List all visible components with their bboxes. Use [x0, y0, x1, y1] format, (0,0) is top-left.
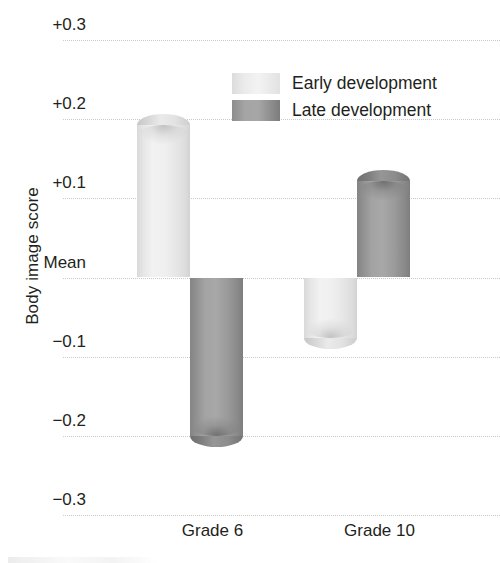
gridline — [63, 198, 500, 199]
legend-label-early: Early development — [292, 73, 437, 94]
y-axis-tick-label: +0.3 — [0, 15, 86, 35]
bar-body — [137, 125, 190, 278]
legend-swatch-late-icon — [232, 100, 280, 121]
legend-label-late: Late development — [292, 100, 431, 121]
bar-late-grade-10[interactable] — [357, 181, 410, 278]
y-axis-tick-label: −0.3 — [0, 490, 86, 510]
chart-legend: Early development Late development — [232, 70, 437, 124]
bar-early-grade-10[interactable] — [304, 278, 357, 338]
bar-early-grade-6[interactable] — [137, 125, 190, 278]
x-axis-label-grade-10: Grade 10 — [307, 521, 452, 541]
bar-cap-shading — [304, 318, 357, 338]
legend-swatch-early-icon — [232, 73, 280, 94]
x-axis-label-grade-6: Grade 6 — [140, 521, 285, 541]
gridline — [63, 515, 500, 516]
gridline — [63, 436, 500, 437]
gridline — [63, 40, 500, 41]
y-axis-tick-label: +0.2 — [0, 94, 86, 114]
y-axis-tick-label: −0.2 — [0, 411, 86, 431]
bar-body — [190, 278, 243, 436]
legend-item-late[interactable]: Late development — [232, 97, 437, 124]
y-axis-tick-label: −0.1 — [0, 332, 86, 352]
bar-cap-shading — [190, 416, 243, 436]
legend-item-early[interactable]: Early development — [232, 70, 437, 97]
bar-cap-shading — [357, 181, 410, 201]
gridline — [63, 278, 500, 279]
y-axis-tick-label: Mean — [0, 253, 86, 273]
gridline — [63, 357, 500, 358]
y-axis-tick-label: +0.1 — [0, 173, 86, 193]
page-edge-artifact — [8, 557, 158, 563]
chart-container: Body image score +0.3+0.2+0.1Mean−0.1−0.… — [0, 0, 500, 563]
bar-cap-shading — [137, 125, 190, 145]
bar-late-grade-6[interactable] — [190, 278, 243, 436]
